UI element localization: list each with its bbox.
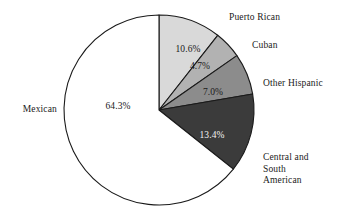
pie-category-label-cuban: Cuban bbox=[252, 40, 278, 52]
pie-category-label-other-hispanic: Other Hispanic bbox=[263, 78, 323, 90]
pie-category-label-central-and-south-american: Central and South American bbox=[263, 152, 309, 187]
pie-chart-figure: 10.6%Puerto Rican4.7%Cuban7.0%Other Hisp… bbox=[0, 0, 350, 218]
pie-slice-group bbox=[64, 15, 254, 205]
pie-category-label-puerto-rican: Puerto Rican bbox=[229, 12, 280, 24]
pie-category-label-mexican: Mexican bbox=[23, 104, 57, 116]
